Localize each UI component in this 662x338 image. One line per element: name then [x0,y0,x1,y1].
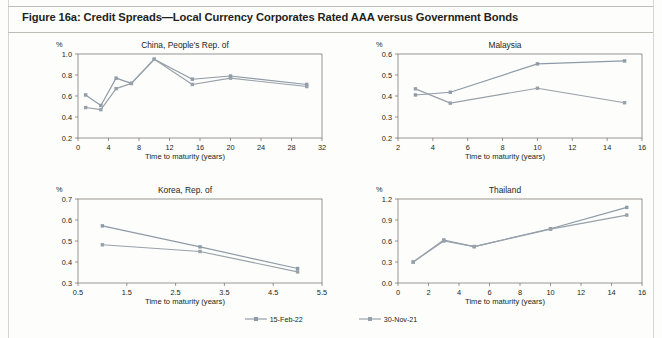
svg-text:1.0: 1.0 [62,50,72,59]
svg-text:6: 6 [466,143,470,152]
svg-text:1.5: 1.5 [122,288,132,297]
svg-text:4.5: 4.5 [268,288,278,297]
svg-text:0.7: 0.7 [62,195,72,204]
svg-text:0.3: 0.3 [62,279,72,288]
chart-title-malaysia: Malaysia [360,40,650,50]
x-axis-title-korea: Time to maturity (years) [40,297,330,306]
chart-title-china: China, People's Rep. of [40,40,330,50]
svg-text:0.9: 0.9 [382,216,392,225]
plot-area-china: 0.20.40.60.81.0048121620242832 [40,50,330,162]
chart-title-thailand: Thailand [360,185,650,195]
svg-text:8: 8 [137,143,141,152]
chart-legend: 15-Feb-22 30-Nov-21 [0,314,662,324]
legend-label-0: 15-Feb-22 [270,315,303,324]
legend-swatch-icon-0 [245,314,267,324]
svg-text:16: 16 [638,143,646,152]
svg-text:14: 14 [603,143,611,152]
svg-text:12: 12 [577,288,585,297]
svg-text:0.6: 0.6 [62,216,72,225]
svg-text:28: 28 [287,143,295,152]
svg-text:0.3: 0.3 [382,258,392,267]
svg-text:0.5: 0.5 [73,288,83,297]
svg-text:4: 4 [431,143,435,152]
svg-text:10: 10 [546,288,554,297]
svg-text:16: 16 [638,288,646,297]
title-rule-top [8,6,653,7]
svg-text:0.2: 0.2 [382,134,392,143]
svg-text:10: 10 [533,143,541,152]
figure-page: Figure 16a: Credit Spreads—Local Currenc… [0,0,662,338]
svg-text:24: 24 [257,143,265,152]
svg-text:0.4: 0.4 [382,92,392,101]
svg-text:0.4: 0.4 [62,258,72,267]
page-border-right [653,0,654,338]
svg-text:2.5: 2.5 [170,288,180,297]
x-axis-title-thailand: Time to maturity (years) [360,297,650,306]
svg-text:0.6: 0.6 [62,92,72,101]
svg-text:6: 6 [487,288,491,297]
svg-text:3.5: 3.5 [219,288,229,297]
chart-title-korea: Korea, Rep. of [40,185,330,195]
chart-panel-china: China, People's Rep. of % 0.20.40.60.81.… [40,40,330,170]
svg-text:8: 8 [518,288,522,297]
svg-text:12: 12 [568,143,576,152]
svg-text:0: 0 [396,288,400,297]
legend-swatch-icon-1 [359,314,381,324]
legend-item-0[interactable]: 15-Feb-22 [245,314,303,324]
legend-item-1[interactable]: 30-Nov-21 [359,314,418,324]
svg-text:4: 4 [457,288,461,297]
svg-text:12: 12 [165,143,173,152]
svg-text:2: 2 [426,288,430,297]
plot-area-malaysia: 0.20.30.40.50.6246810121416 [360,50,650,162]
svg-text:0: 0 [76,143,80,152]
chart-panel-thailand: Thailand % 0.00.30.60.91.20246810121416 … [360,185,650,315]
svg-text:0.6: 0.6 [382,237,392,246]
svg-text:0.5: 0.5 [382,71,392,80]
y-unit-label-korea: % [56,185,63,194]
y-unit-label-china: % [56,40,63,49]
svg-text:0.8: 0.8 [62,71,72,80]
svg-text:0.0: 0.0 [382,279,392,288]
svg-text:0.2: 0.2 [62,134,72,143]
svg-text:4: 4 [106,143,110,152]
svg-text:8: 8 [501,143,505,152]
svg-text:1.2: 1.2 [382,195,392,204]
x-axis-title-china: Time to maturity (years) [40,152,330,161]
y-unit-label-malaysia: % [376,40,383,49]
figure-title: Figure 16a: Credit Spreads—Local Currenc… [22,11,518,23]
svg-text:5.5: 5.5 [317,288,327,297]
svg-text:0.5: 0.5 [62,237,72,246]
page-border-left [8,0,9,338]
svg-text:32: 32 [318,143,326,152]
svg-text:2: 2 [396,143,400,152]
svg-text:16: 16 [196,143,204,152]
y-unit-label-thailand: % [376,185,383,194]
plot-area-thailand: 0.00.30.60.91.20246810121416 [360,195,650,307]
svg-text:20: 20 [226,143,234,152]
svg-text:0.3: 0.3 [382,113,392,122]
svg-text:0.4: 0.4 [62,113,72,122]
svg-text:14: 14 [607,288,615,297]
chart-panel-korea: Korea, Rep. of % 0.30.40.50.60.70.51.52.… [40,185,330,315]
legend-label-1: 30-Nov-21 [384,315,418,324]
x-axis-title-malaysia: Time to maturity (years) [360,152,650,161]
chart-panel-malaysia: Malaysia % 0.20.30.40.50.6246810121416 T… [360,40,650,170]
svg-text:0.6: 0.6 [382,50,392,59]
plot-area-korea: 0.30.40.50.60.70.51.52.53.54.55.5 [40,195,330,307]
title-rule-bottom [8,32,653,33]
